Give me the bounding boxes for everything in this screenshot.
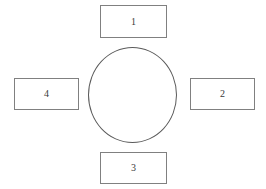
diagram-canvas: 1 2 3 4 (0, 0, 266, 189)
node-label-top: 1 (131, 17, 136, 27)
node-box-right[interactable]: 2 (190, 78, 255, 110)
node-box-bottom[interactable]: 3 (100, 152, 167, 184)
node-box-left[interactable]: 4 (14, 78, 79, 110)
node-box-top[interactable]: 1 (100, 5, 167, 38)
node-label-left: 4 (44, 89, 49, 99)
node-label-bottom: 3 (131, 163, 136, 173)
center-ellipse-shape (88, 47, 177, 143)
node-label-right: 2 (220, 89, 225, 99)
